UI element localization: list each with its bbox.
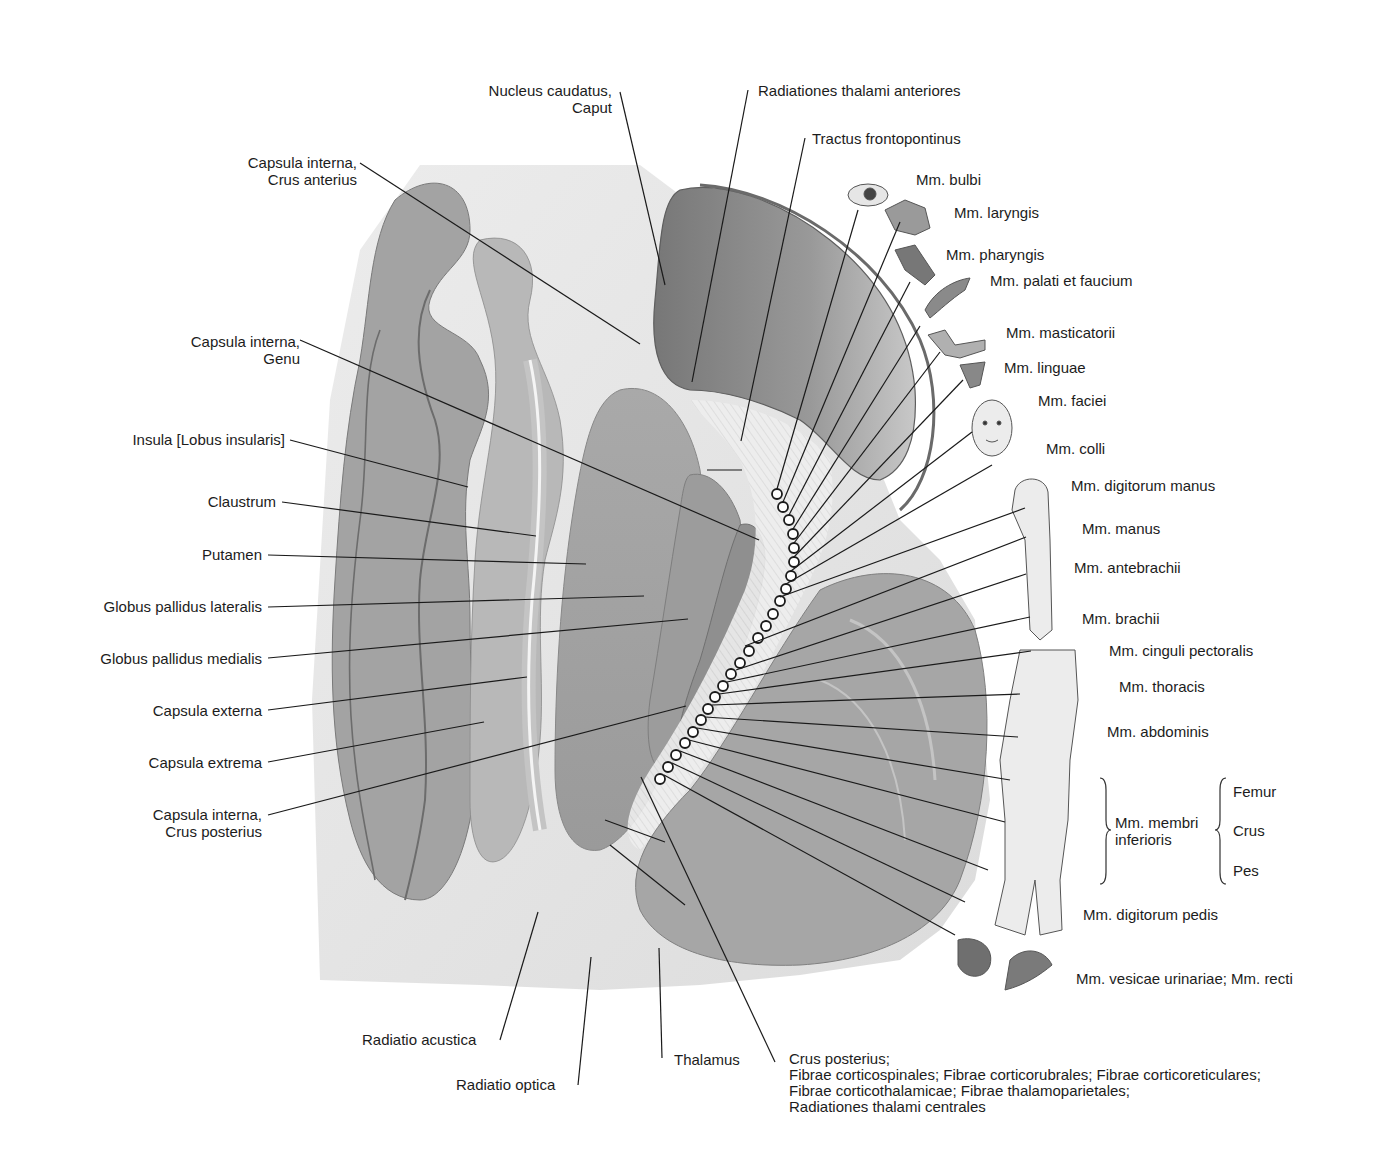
label-capsula-interna-genu: Capsula interna, Genu xyxy=(191,333,300,367)
label-mm-linguae: Mm. linguae xyxy=(1004,359,1086,376)
label-mm-laryngis: Mm. laryngis xyxy=(954,204,1039,221)
label-mm-colli: Mm. colli xyxy=(1046,440,1105,457)
label-capsula-externa: Capsula externa xyxy=(153,702,262,719)
label-putamen: Putamen xyxy=(202,546,262,563)
rectum-icon xyxy=(1005,951,1052,990)
anatomy-figure: Nucleus caudatus, Caput Capsula interna,… xyxy=(0,0,1398,1161)
brace-femur-crus-pes xyxy=(1215,778,1226,884)
label-globus-pallidus-medialis: Globus pallidus medialis xyxy=(100,650,262,667)
hand-arm-icon xyxy=(1012,479,1052,640)
label-mm-vesicae-recti: Mm. vesicae urinariae; Mm. recti xyxy=(1076,970,1293,987)
label-capsula-interna-crus-posterius: Capsula interna, Crus posterius xyxy=(153,806,262,840)
label-nucleus-caudatus-caput: Nucleus caudatus, Caput xyxy=(489,82,612,116)
label-globus-pallidus-lateralis: Globus pallidus lateralis xyxy=(104,598,262,615)
label-femur: Femur xyxy=(1233,783,1276,800)
larynx-icon xyxy=(885,200,930,235)
tongue-icon xyxy=(960,362,985,388)
label-mm-brachii: Mm. brachii xyxy=(1082,610,1160,627)
label-mm-digitorum-manus: Mm. digitorum manus xyxy=(1071,477,1215,494)
label-mm-pharyngis: Mm. pharyngis xyxy=(946,246,1044,263)
pharynx-icon xyxy=(895,245,935,285)
label-mm-palati-et-faucium: Mm. palati et faucium xyxy=(990,272,1133,289)
label-radiatio-acustica: Radiatio acustica xyxy=(362,1031,476,1048)
label-thalamus: Thalamus xyxy=(674,1051,740,1068)
label-tractus-frontopontinus: Tractus frontopontinus xyxy=(812,130,961,147)
label-capsula-interna-crus-anterius: Capsula interna, Crus anterius xyxy=(248,154,357,188)
torso-legs-icon xyxy=(995,650,1078,935)
label-mm-bulbi: Mm. bulbi xyxy=(916,171,981,188)
label-radiationes-thalami-anteriores: Radiationes thalami anteriores xyxy=(758,82,961,99)
brace-membri-inferioris xyxy=(1100,778,1111,884)
bladder-icon xyxy=(958,939,991,977)
label-radiatio-optica: Radiatio optica xyxy=(456,1076,555,1093)
label-mm-abdominis: Mm. abdominis xyxy=(1107,723,1209,740)
label-claustrum: Claustrum xyxy=(208,493,276,510)
label-mm-digitorum-pedis: Mm. digitorum pedis xyxy=(1083,906,1218,923)
mandible-icon xyxy=(928,330,985,358)
label-mm-manus: Mm. manus xyxy=(1082,520,1160,537)
label-mm-masticatorii: Mm. masticatorii xyxy=(1006,324,1115,341)
label-mm-membri-inferioris: Mm. membri inferioris xyxy=(1115,814,1198,848)
label-capsula-extrema: Capsula extrema xyxy=(149,754,262,771)
label-mm-thoracis: Mm. thoracis xyxy=(1119,678,1205,695)
label-insula: Insula [Lobus insularis] xyxy=(132,431,285,448)
label-pes: Pes xyxy=(1233,862,1259,879)
label-crus: Crus xyxy=(1233,822,1265,839)
palate-icon xyxy=(925,278,970,318)
label-crus-posterius-fibres: Crus posterius; Fibrae corticospinales; … xyxy=(789,1051,1261,1115)
label-mm-antebrachii: Mm. antebrachii xyxy=(1074,559,1181,576)
face-icon xyxy=(972,400,1012,456)
label-mm-cinguli-pectoralis: Mm. cinguli pectoralis xyxy=(1109,642,1253,659)
label-mm-faciei: Mm. faciei xyxy=(1038,392,1106,409)
